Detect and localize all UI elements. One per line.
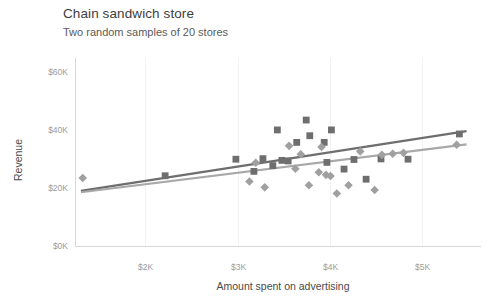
data-point (452, 140, 461, 149)
data-point (315, 168, 324, 177)
data-point (303, 117, 310, 124)
data-point (260, 183, 269, 192)
scatter-plot: $60K $40K $20K $0K $2K $3K $4K $5K Amoun… (0, 0, 488, 305)
data-point (251, 168, 258, 175)
data-point (405, 156, 412, 163)
data-point (278, 157, 285, 164)
data-point (306, 132, 313, 139)
x-axis-title: Amount spent on advertising (216, 280, 349, 292)
y-tick-label-20k: $20K (48, 183, 68, 193)
y-axis-title: Revenue (12, 139, 24, 181)
x-tick-label-2k: $2K (138, 262, 153, 272)
gridlines-group (76, 58, 423, 246)
data-point (251, 158, 260, 167)
data-point (333, 189, 342, 198)
data-point (293, 139, 300, 146)
data-point (260, 155, 267, 162)
data-point (269, 162, 276, 169)
y-tick-label-60k: $60K (48, 67, 68, 77)
data-point (274, 127, 281, 134)
data-point (328, 127, 335, 134)
chart-container: Chain sandwich store Two random samples … (0, 0, 488, 305)
y-tick-label-0k: $0K (53, 241, 68, 251)
data-point (363, 176, 370, 183)
data-point (344, 181, 353, 190)
y-tick-label-40k: $40K (48, 125, 68, 135)
data-point (285, 158, 292, 165)
data-point (232, 156, 239, 163)
x-tick-label-4k: $4K (323, 262, 338, 272)
data-point (351, 156, 358, 163)
data-point (370, 186, 379, 195)
data-point (305, 181, 314, 190)
data-point (388, 149, 397, 158)
data-point (245, 177, 254, 186)
x-tick-label-5k: $5K (415, 262, 430, 272)
data-point (456, 131, 463, 138)
data-point (78, 174, 87, 183)
data-point (162, 172, 169, 179)
data-point (285, 142, 294, 151)
x-axis-ticks: $2K $3K $4K $5K (138, 262, 430, 272)
x-tick-label-3k: $3K (231, 262, 246, 272)
y-axis-ticks: $60K $40K $20K $0K (48, 67, 68, 251)
data-point (341, 166, 348, 173)
data-point (324, 159, 331, 166)
